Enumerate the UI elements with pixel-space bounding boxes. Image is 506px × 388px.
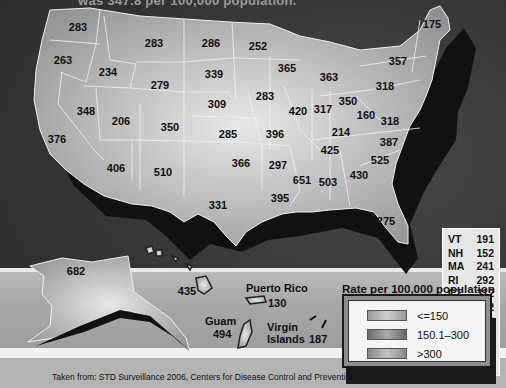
state-value-wi: 365 [278, 62, 296, 74]
puerto-rico-name: Puerto Rico [246, 282, 308, 294]
legend-swatch [367, 310, 407, 321]
state-value-wa: 283 [69, 21, 87, 33]
state-value-ms: 651 [293, 174, 311, 186]
state-value-al: 503 [319, 176, 337, 188]
state-value-ks: 285 [219, 128, 237, 140]
state-value-nv: 348 [77, 105, 95, 117]
state-value-nd: 286 [202, 37, 220, 49]
state-value-ut: 206 [112, 115, 130, 127]
state-value-tx: 331 [209, 199, 227, 211]
state-value-az: 406 [107, 162, 125, 174]
state-value-va: 318 [381, 115, 399, 127]
state-value-co: 350 [161, 121, 179, 133]
legend-swatch [367, 348, 407, 359]
state-value-oh: 350 [339, 95, 357, 107]
state-value-mn: 252 [249, 40, 267, 52]
state-value-ia: 283 [256, 90, 274, 102]
state-value-ny: 357 [389, 55, 407, 67]
state-value-fl: 275 [377, 215, 395, 227]
state-value-nc: 387 [380, 136, 398, 148]
state-value-pa: 318 [376, 80, 394, 92]
guam-value: 494 [213, 328, 231, 340]
state-value-me: 175 [423, 18, 441, 30]
state-value-id: 234 [99, 66, 117, 78]
legend: <=150 150.1–300 >300 [342, 294, 492, 368]
table-row: VT191 [448, 233, 494, 247]
table-row: MA241 [448, 260, 494, 274]
state-value-il: 420 [289, 105, 307, 117]
alaska-value: 682 [67, 265, 85, 277]
guam-shape [238, 320, 252, 348]
legend-item: 150.1–300 [367, 325, 485, 344]
state-value-ky: 214 [332, 126, 350, 138]
virgin-islands-value: 187 [309, 333, 327, 345]
state-value-ok: 366 [232, 157, 250, 169]
guam-name: Guam [205, 315, 236, 327]
table-row: NH152 [448, 247, 494, 261]
std-rate-map: was 347.8 per 100,000 population. [0, 0, 506, 388]
legend-inner: <=150 150.1–300 >300 [348, 300, 486, 362]
source-caption: Taken from: STD Surveillance 2006, Cente… [52, 372, 357, 382]
state-value-sd: 339 [205, 68, 223, 80]
state-value-ne: 309 [208, 98, 226, 110]
legend-swatch [367, 329, 407, 340]
state-value-mo: 396 [266, 128, 284, 140]
virgin-islands-name-1: Virgin [267, 321, 298, 333]
state-value-nm: 510 [154, 166, 172, 178]
virgin-islands-shape [310, 316, 326, 328]
state-value-mi: 363 [320, 71, 338, 83]
state-value-ar: 297 [269, 159, 287, 171]
state-value-wv: 160 [357, 109, 375, 121]
state-value-tn: 425 [321, 144, 339, 156]
state-value-mt: 283 [145, 37, 163, 49]
legend-item: <=150 [367, 306, 485, 325]
state-value-la: 395 [271, 192, 289, 204]
legend-item: >300 [367, 344, 485, 363]
state-value-in: 317 [314, 103, 332, 115]
virgin-islands-name-2: Islands [267, 333, 305, 345]
state-value-or: 263 [54, 54, 72, 66]
state-value-wy: 279 [151, 79, 169, 91]
alaska-shape [28, 256, 190, 352]
hawaii-value: 435 [178, 285, 196, 297]
state-value-ga: 430 [350, 169, 368, 181]
puerto-rico-value: 130 [268, 297, 286, 309]
puerto-rico-shape [246, 296, 266, 304]
state-value-ca: 376 [48, 133, 66, 145]
state-value-sc: 525 [371, 154, 389, 166]
